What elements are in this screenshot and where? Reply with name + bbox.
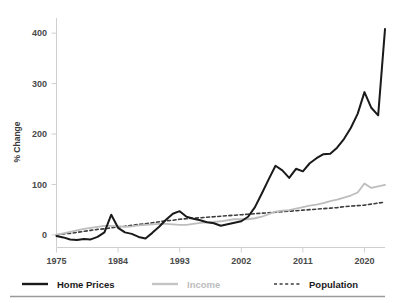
x-tick-label: 2011 [293, 256, 313, 266]
y-tick-label: 300 [32, 79, 47, 89]
x-tick-label: 1975 [46, 256, 66, 266]
legend-label-income: Income [187, 279, 220, 290]
x-tick-label: 1984 [108, 256, 128, 266]
y-tick-label: 0 [42, 230, 47, 240]
y-axis-title: % Change [12, 121, 22, 162]
chart-plot-svg: 0100200300400 % Change 19751984199320022… [0, 0, 395, 303]
legend-label-home-prices: Home Prices [57, 279, 115, 290]
y-tick-label: 400 [32, 28, 47, 38]
chart-figure: 0100200300400 % Change 19751984199320022… [0, 0, 395, 303]
y-tick-label: 100 [32, 180, 47, 190]
y-tick-label: 200 [32, 129, 47, 139]
x-tick-label: 2020 [354, 256, 374, 266]
x-tick-label: 2002 [231, 256, 251, 266]
legend-label-population: Population [309, 279, 358, 290]
x-tick-label: 1993 [170, 256, 190, 266]
